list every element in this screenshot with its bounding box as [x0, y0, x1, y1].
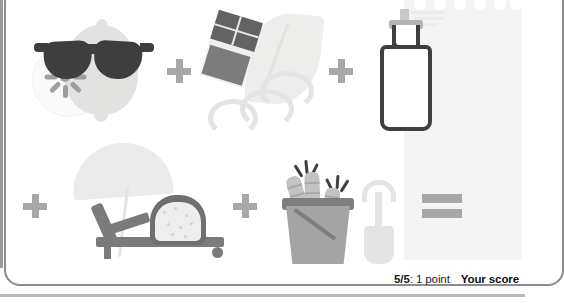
milk-bottle-spray-icon: [362, 7, 454, 135]
card-bottom-rule: [0, 294, 525, 297]
bucket-body: [286, 206, 350, 264]
score-title: Your score: [461, 273, 519, 285]
score-progress-value: 5/5: [394, 273, 410, 285]
sun-lounger-bread-icon: [56, 143, 224, 269]
panel-dot: [474, 0, 486, 10]
bottle-body: [380, 45, 432, 131]
wind-swirl: [208, 99, 258, 137]
score-points-value: 1 point: [416, 273, 450, 285]
spray-mist: [411, 11, 445, 14]
score-progress-label: 5/5: 1 point: [394, 273, 450, 285]
panel-dot: [494, 0, 506, 10]
equals-operator: [420, 189, 464, 223]
sunglasses-icon: [44, 41, 160, 85]
lemon-tip-bottom: [94, 107, 108, 122]
puzzle-row-2: [14, 142, 470, 270]
carrot-leaf: [336, 175, 340, 189]
lounger-seat: [104, 212, 151, 236]
rebus-puzzle: [0, 0, 404, 275]
plus-operator: [326, 56, 356, 86]
plus-operator: [230, 191, 260, 221]
spade-blade: [364, 226, 394, 264]
plus-operator: [164, 56, 194, 86]
lemon-sunglasses-icon: [30, 11, 158, 131]
lounger-leg: [104, 247, 111, 259]
score-footer: 5/5: 1 point Your score: [0, 269, 521, 289]
bread-slice-icon: [150, 195, 206, 245]
plus-operator: [20, 191, 50, 221]
puzzle-row-1: [30, 6, 454, 136]
panel-dot: [454, 0, 466, 10]
panel-dot: [510, 0, 522, 10]
parasol-icon: [70, 140, 174, 201]
bucket-carrots-spade-icon: [266, 142, 402, 270]
carrot-leaf: [340, 179, 350, 192]
chocolate-feather-icon: [200, 9, 320, 133]
lounger-wheel: [212, 247, 223, 258]
